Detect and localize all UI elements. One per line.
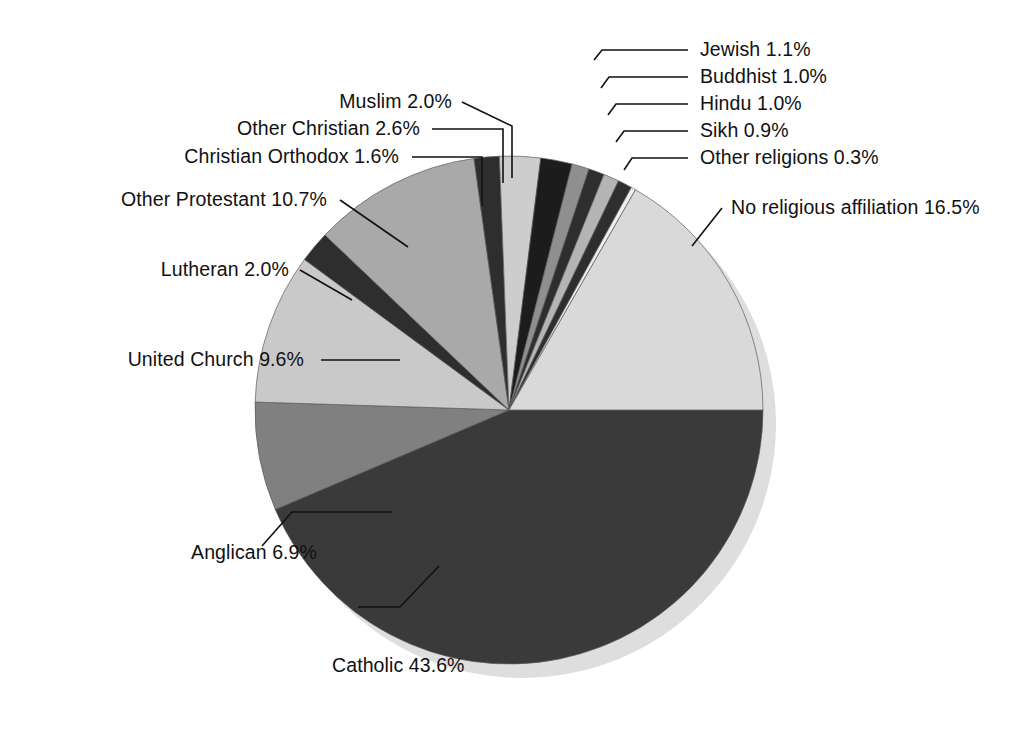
slice-label-christian-orthodox: Christian Orthodox 1.6% [184, 145, 399, 167]
slice-label-anglican: Anglican 6.9% [191, 541, 317, 563]
slice-label-no-religious-affiliation: No religious affiliation 16.5% [731, 196, 980, 218]
slice-label-lutheran: Lutheran 2.0% [161, 258, 289, 280]
pie-slices [255, 156, 763, 664]
slice-label-catholic: Catholic 43.6% [332, 654, 465, 676]
pie-chart-figure: Catholic 43.6%Anglican 6.9%United Church… [0, 0, 1032, 733]
slice-label-other-christian: Other Christian 2.6% [237, 117, 420, 139]
slice-label-muslim: Muslim 2.0% [339, 90, 452, 112]
slice-label-other-religions: Other religions 0.3% [700, 146, 879, 168]
slice-label-sikh: Sikh 0.9% [700, 119, 789, 141]
pie-chart-svg: Catholic 43.6%Anglican 6.9%United Church… [0, 0, 1032, 733]
slice-label-other-protestant: Other Protestant 10.7% [121, 188, 327, 210]
slice-label-united-church: United Church 9.6% [128, 348, 304, 370]
slice-label-buddhist: Buddhist 1.0% [700, 65, 827, 87]
slice-label-jewish: Jewish 1.1% [700, 38, 811, 60]
slice-label-hindu: Hindu 1.0% [700, 92, 802, 114]
